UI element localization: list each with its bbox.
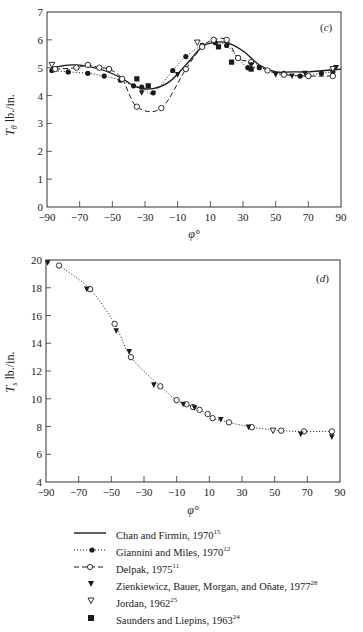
chart-d-x-axis: −90−70−50−30−101030507090: [37, 476, 346, 498]
x-tick-label: −30: [135, 486, 153, 498]
x-tick-label: 70: [303, 211, 315, 223]
chart-c-x-axis: −90−70−50−30−101030507090: [38, 201, 347, 223]
legend-item-delpak: Delpak, 197511: [72, 558, 363, 575]
legend-item-zienkiewicz: Zienkiewicz, Bauer, Morgan, and Oñate, 1…: [72, 575, 363, 592]
y-tick-label: 12: [31, 365, 42, 377]
series: [45, 260, 335, 440]
y-tick-label: 1: [38, 173, 44, 185]
x-tick-label: −70: [71, 211, 89, 223]
y-tick-label: 2: [38, 145, 44, 157]
chart-c-panel-label: (c): [320, 21, 333, 34]
x-tick-label: −90: [38, 211, 56, 223]
x-tick-label: 10: [204, 486, 216, 498]
chart-d-panel: 468101214161820 −90−70−50−30−10103050709…: [3, 254, 346, 517]
legend-item-giannini-miles: Giannini and Miles, 197012: [72, 541, 363, 558]
x-tick-label: −70: [70, 486, 88, 498]
chart-c-x-axis-title: φ°: [188, 227, 200, 241]
legend-label: Zienkiewicz, Bauer, Morgan, and Oñate, 1…: [116, 581, 310, 592]
chart-d-x-axis-title: φ°: [187, 503, 199, 517]
y-tick-label: 4: [38, 90, 44, 102]
y-tick-label: 8: [37, 421, 43, 433]
x-tick-label: 90: [336, 211, 348, 223]
dashed-open-circle-icon: [72, 558, 108, 575]
x-tick-label: −50: [104, 211, 122, 223]
legend-item-saunders-liepins: Saunders and Liepins, 196324: [72, 609, 363, 626]
x-tick-label: −90: [37, 486, 55, 498]
chart-d-series: [45, 260, 335, 440]
x-tick-label: 50: [270, 211, 282, 223]
x-tick-label: 70: [302, 486, 314, 498]
legend-item-jordan: Jordan, 196225: [72, 592, 363, 609]
legend-ref: 25: [170, 596, 177, 604]
chart-d-panel-label: (d): [316, 272, 329, 285]
series: [270, 428, 276, 433]
chart-c-panel: 01234567 −90−70−50−30−101030507090 (c) T…: [3, 6, 347, 241]
legend-label: Giannini and Miles, 1970: [116, 547, 223, 558]
series: [134, 44, 254, 88]
legend-label: Delpak, 1975: [116, 564, 173, 575]
y-tick-label: 3: [38, 117, 44, 129]
x-tick-label: −10: [168, 486, 186, 498]
legend-label: Jordan, 1962: [116, 598, 170, 609]
y-tick-label: 16: [31, 310, 43, 322]
y-tick-label: 14: [31, 337, 43, 349]
chart-c-y-axis-title: Tθ lb./in.: [3, 94, 19, 136]
dotted-filled-circle-icon: [72, 541, 108, 558]
chart-c-frame: [47, 12, 341, 207]
y-tick-label: 6: [38, 34, 44, 46]
x-tick-label: −10: [169, 211, 187, 223]
x-tick-label: 10: [205, 211, 217, 223]
legend-ref: 12: [223, 545, 230, 553]
x-tick-label: 90: [335, 486, 347, 498]
figure-plots: 01234567 −90−70−50−30−101030507090 (c) T…: [0, 0, 363, 520]
x-tick-label: 30: [238, 211, 250, 223]
legend-item-chan-firmin: Chan and Firmin, 197015: [72, 524, 363, 541]
solid-line-icon: [72, 524, 108, 541]
chart-d-frame: [46, 260, 340, 482]
y-tick-label: 20: [31, 254, 43, 266]
y-tick-label: 5: [38, 62, 44, 74]
y-tick-label: 10: [31, 393, 43, 405]
x-tick-label: −50: [103, 486, 121, 498]
y-tick-label: 18: [31, 282, 43, 294]
chart-c-y-axis: 01234567: [38, 6, 53, 213]
legend-ref: 28: [310, 579, 317, 587]
open-triangle-down-icon: [72, 592, 108, 609]
legend-label: Saunders and Liepins, 1963: [116, 615, 233, 626]
legend-ref: 11: [173, 562, 180, 570]
y-tick-label: 6: [37, 448, 43, 460]
x-tick-label: 30: [237, 486, 249, 498]
legend-label: Chan and Firmin, 1970: [116, 530, 213, 541]
legend-ref: 15: [213, 528, 220, 536]
chart-d-y-axis: 468101214161820: [31, 254, 51, 488]
y-tick-label: 7: [38, 6, 44, 18]
chart-c-series: [49, 37, 341, 112]
chart-d-y-axis-title: Ts lb./in.: [3, 352, 19, 393]
legend: Chan and Firmin, 197015 Giannini and Mil…: [72, 524, 363, 626]
series: [52, 42, 341, 89]
filled-triangle-down-icon: [72, 575, 108, 592]
x-tick-label: −30: [136, 211, 154, 223]
filled-square-icon: [72, 609, 108, 626]
legend-ref: 24: [233, 613, 240, 621]
x-tick-label: 50: [269, 486, 281, 498]
